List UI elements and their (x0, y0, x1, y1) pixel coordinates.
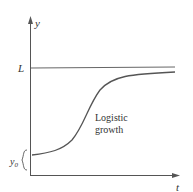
y-axis-label: y (34, 17, 40, 29)
curve-label-line2: growth (95, 124, 123, 135)
t-axis-label: t (176, 181, 180, 192)
initial-value-brace (22, 150, 27, 170)
carrying-capacity-line (31, 67, 175, 68)
initial-value-label: y0 (9, 156, 18, 169)
logistic-growth-diagram: y t L y0 Logistic growth (0, 0, 193, 192)
limit-label: L (17, 62, 24, 74)
curve-label-line1: Logistic (95, 112, 128, 123)
t-axis-arrow-icon (172, 173, 180, 178)
y-axis-arrow-icon (28, 16, 33, 24)
diagram-canvas: y t L y0 Logistic growth (0, 0, 193, 192)
